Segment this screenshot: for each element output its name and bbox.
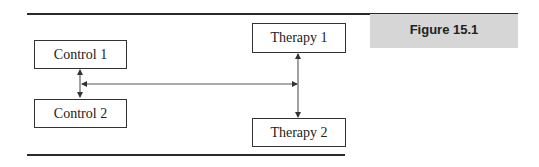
arrows-layer: [0, 0, 539, 167]
